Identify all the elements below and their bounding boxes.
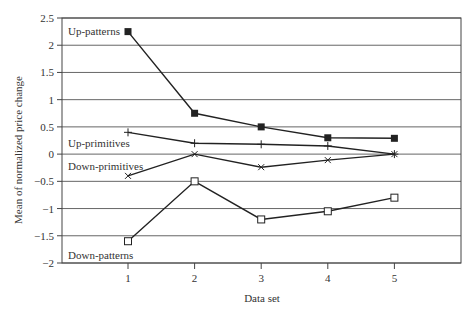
y-axis-ticks: 2.521.510.50−0.5−1−1.5−2 bbox=[34, 12, 62, 269]
x-tick-label: 3 bbox=[258, 272, 264, 284]
y-tick-label: −2 bbox=[42, 257, 54, 269]
y-tick-label: −1.5 bbox=[34, 230, 54, 242]
series-label: Down-patterns bbox=[68, 249, 133, 261]
y-tick-label: −1 bbox=[42, 203, 54, 215]
x-tick-label: 2 bbox=[192, 272, 198, 284]
filled-square-marker bbox=[324, 134, 331, 141]
open-square-marker bbox=[324, 208, 331, 215]
y-axis-label: Mean of normalized price change bbox=[12, 76, 24, 224]
series-down-patterns bbox=[125, 178, 398, 245]
series-label: Down-primitives bbox=[68, 160, 143, 172]
y-tick-label: 2.5 bbox=[40, 12, 54, 24]
open-square-marker bbox=[258, 216, 265, 223]
plus-marker bbox=[257, 140, 265, 148]
x-axis-label: Data set bbox=[244, 292, 280, 304]
open-square-marker bbox=[191, 178, 198, 185]
filled-square-marker bbox=[391, 135, 398, 142]
x-axis-ticks: 12345 bbox=[125, 263, 397, 284]
series-down-primitives bbox=[125, 151, 397, 179]
open-square-marker bbox=[125, 238, 132, 245]
y-tick-label: 1 bbox=[49, 94, 55, 106]
y-tick-label: 0.5 bbox=[40, 121, 54, 133]
y-tick-label: −0.5 bbox=[34, 175, 54, 187]
filled-square-marker bbox=[125, 28, 132, 35]
plus-marker bbox=[124, 128, 132, 136]
filled-square-marker bbox=[258, 123, 265, 130]
plus-marker bbox=[191, 139, 199, 147]
x-tick-label: 4 bbox=[325, 272, 331, 284]
series-label: Up-patterns bbox=[68, 25, 120, 37]
series-labels: Up-patternsUp-primitivesDown-primitivesD… bbox=[68, 25, 143, 261]
x-tick-label: 5 bbox=[392, 272, 398, 284]
series-lines bbox=[124, 28, 398, 245]
open-square-marker bbox=[391, 194, 398, 201]
plus-marker bbox=[324, 142, 332, 150]
y-tick-label: 0 bbox=[49, 148, 55, 160]
line-chart: 2.521.510.50−0.5−1−1.5−2 12345 Up-patter… bbox=[0, 0, 475, 316]
y-tick-label: 2 bbox=[49, 39, 55, 51]
filled-square-marker bbox=[191, 110, 198, 117]
series-label: Up-primitives bbox=[68, 137, 130, 149]
y-tick-label: 1.5 bbox=[40, 66, 54, 78]
x-tick-label: 1 bbox=[125, 272, 131, 284]
